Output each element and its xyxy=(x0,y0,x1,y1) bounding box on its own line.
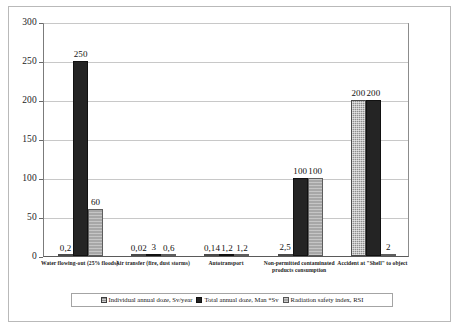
legend-swatch-icon xyxy=(101,297,107,303)
bar[interactable]: 60 xyxy=(88,209,103,256)
y-axis-tick-label: 150 xyxy=(11,135,37,144)
bar-group-bars: 0,225060 xyxy=(44,24,117,256)
bar-group: 0,0230,6 xyxy=(117,24,190,256)
bar-group-bars: 0,141,21,2 xyxy=(190,24,263,256)
bar-value-label: 2 xyxy=(386,243,391,252)
bar[interactable]: 0,2 xyxy=(58,254,73,256)
legend-item[interactable]: Total annual doze, Man *Sv xyxy=(196,296,278,304)
bar[interactable]: 2 xyxy=(381,254,396,256)
y-axis-tick-label: 0 xyxy=(11,252,37,261)
bar[interactable]: 100 xyxy=(293,178,308,256)
chart-legend: Individual annual doze, Sv/yearTotal ann… xyxy=(71,293,393,307)
bar[interactable]: 3 xyxy=(146,254,161,256)
bar-group: 0,225060 xyxy=(44,24,117,256)
bar-value-label: 60 xyxy=(91,198,100,207)
bar[interactable]: 1,2 xyxy=(234,254,249,256)
legend-label: Individual annual doze, Sv/year xyxy=(109,296,193,304)
chart-frame: 050100150200250300 0,2250600,0230,60,141… xyxy=(8,6,451,322)
bar[interactable]: 0,6 xyxy=(161,254,176,256)
bar[interactable]: 200 xyxy=(351,100,366,256)
bar[interactable]: 100 xyxy=(308,178,323,256)
bar-group: 2002002 xyxy=(337,24,410,256)
bar-group-bars: 0,0230,6 xyxy=(117,24,190,256)
bar-value-label: 100 xyxy=(293,167,307,176)
y-axis-tick-label: 250 xyxy=(11,57,37,66)
y-axis-tick-label: 200 xyxy=(11,96,37,105)
bar-value-label: 0,02 xyxy=(131,244,147,253)
bar-value-label: 200 xyxy=(366,89,380,98)
bar-group: 2,5100100 xyxy=(264,24,337,256)
bar-value-label: 1,2 xyxy=(236,244,248,253)
bar[interactable]: 2,5 xyxy=(278,254,293,256)
legend-swatch-icon xyxy=(196,297,202,303)
y-axis-tick-label: 50 xyxy=(11,213,37,222)
bar-group-bars: 2002002 xyxy=(337,24,410,256)
legend-label: Total annual doze, Man *Sv xyxy=(204,296,278,304)
legend-label: Radiation safety index, RSI xyxy=(291,296,364,304)
bar-group-bars: 2,5100100 xyxy=(264,24,337,256)
bar-value-label: 200 xyxy=(351,89,365,98)
bar[interactable]: 250 xyxy=(73,61,88,256)
bar-value-label: 0,6 xyxy=(163,244,175,253)
legend-item[interactable]: Radiation safety index, RSI xyxy=(283,296,364,304)
bar-value-label: 250 xyxy=(74,50,88,59)
bar-group: 0,141,21,2 xyxy=(190,24,263,256)
bar-value-label: 1,2 xyxy=(221,244,233,253)
legend-swatch-icon xyxy=(283,297,289,303)
y-axis-tick-label: 100 xyxy=(11,174,37,183)
bar[interactable]: 1,2 xyxy=(219,254,234,256)
chart-plot-wrapper: 050100150200250300 0,2250600,0230,60,141… xyxy=(9,7,452,323)
category-label: Accident at "Shell" to object xyxy=(330,260,415,267)
bar-value-label: 0,2 xyxy=(60,244,72,253)
plot-area: 0,2250600,0230,60,141,21,22,510010020020… xyxy=(43,23,409,257)
legend-item[interactable]: Individual annual doze, Sv/year xyxy=(101,296,193,304)
bar[interactable]: 0,14 xyxy=(204,254,219,256)
bar[interactable]: 0,02 xyxy=(131,254,146,256)
bar-value-label: 100 xyxy=(308,167,322,176)
y-axis-tick-label: 300 xyxy=(11,18,37,27)
bar-value-label: 0,14 xyxy=(204,244,220,253)
bar[interactable]: 200 xyxy=(366,100,381,256)
bar-value-label: 3 xyxy=(151,243,156,252)
y-axis-tick-mark xyxy=(39,257,43,258)
bar-value-label: 2,5 xyxy=(279,243,291,252)
